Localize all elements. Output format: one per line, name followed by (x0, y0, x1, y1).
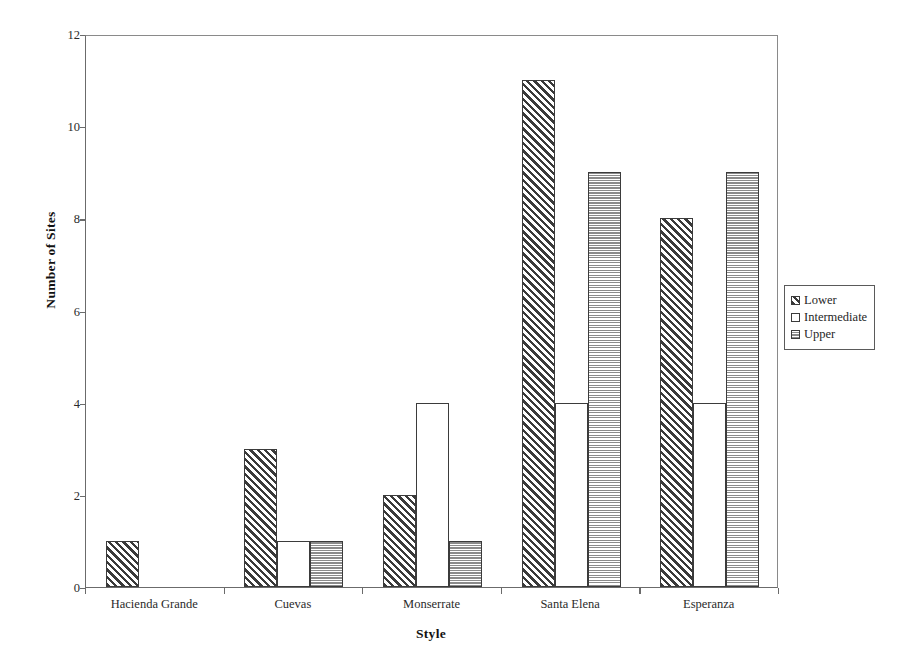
x-tick-mark (85, 588, 86, 594)
legend-item[interactable]: Lower (791, 292, 867, 309)
legend-swatch-icon (791, 296, 800, 305)
y-tick-mark (80, 35, 85, 36)
y-tick-mark (80, 588, 85, 589)
y-tick-mark (80, 404, 85, 405)
bar (244, 449, 277, 587)
legend-item-label: Upper (804, 328, 835, 341)
legend-item-label: Intermediate (804, 311, 867, 324)
y-tick-label: 8 (54, 213, 80, 226)
y-axis-ticks: 024681012 (50, 35, 80, 588)
bar (522, 80, 555, 587)
y-tick-label: 10 (54, 121, 80, 134)
x-tick-mark (501, 588, 502, 594)
x-tick-label: Esperanza (683, 597, 734, 612)
legend-item-label: Lower (804, 294, 837, 307)
x-tick-label: Santa Elena (540, 597, 599, 612)
x-tick-mark (778, 588, 779, 594)
y-tick-label: 12 (54, 29, 80, 42)
x-axis-title: Style (0, 626, 862, 642)
bar (310, 541, 343, 587)
bars-layer (86, 36, 777, 587)
plot-area (85, 35, 778, 588)
x-tick-mark (639, 588, 640, 594)
y-tick-mark (80, 496, 85, 497)
x-tick-label: Hacienda Grande (111, 597, 198, 612)
legend-item[interactable]: Upper (791, 326, 867, 343)
y-tick-label: 4 (54, 397, 80, 410)
x-tick-label: Monserrate (403, 597, 460, 612)
bar (588, 172, 621, 587)
bar (660, 218, 693, 587)
legend-swatch-icon (791, 313, 800, 322)
bar (383, 495, 416, 587)
y-tick-mark (80, 312, 85, 313)
y-tick-label: 2 (54, 490, 80, 503)
bar (106, 541, 139, 587)
legend[interactable]: LowerIntermediateUpper (784, 285, 875, 350)
bar (726, 172, 759, 587)
bar (693, 403, 726, 587)
bar (449, 541, 482, 587)
y-tick-mark (80, 219, 85, 220)
bar (416, 403, 449, 587)
bar-chart: Number of Sites 024681012 Hacienda Grand… (0, 0, 912, 664)
y-tick-mark (80, 127, 85, 128)
bar (555, 403, 588, 587)
bar (277, 541, 310, 587)
legend-item[interactable]: Intermediate (791, 309, 867, 326)
x-tick-mark (362, 588, 363, 594)
x-tick-label: Cuevas (274, 597, 311, 612)
y-tick-label: 0 (54, 582, 80, 595)
y-tick-label: 6 (54, 305, 80, 318)
legend-swatch-icon (791, 330, 800, 339)
x-tick-mark (224, 588, 225, 594)
